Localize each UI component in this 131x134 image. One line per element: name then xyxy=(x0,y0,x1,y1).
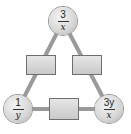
fraction-top: 3 x xyxy=(58,10,69,32)
node-bottom-left: 1 y xyxy=(4,95,32,123)
denominator: y xyxy=(15,110,20,120)
fraction-bottom-left: 1 y xyxy=(13,98,24,120)
denominator: x xyxy=(60,22,65,32)
numerator: 1 xyxy=(15,98,21,109)
answer-box-right[interactable] xyxy=(72,55,102,75)
fraction-bottom-right: 3y x xyxy=(104,98,115,120)
numerator: 3y xyxy=(104,98,115,109)
numerator: 3 xyxy=(60,10,66,21)
node-top: 3 x xyxy=(49,7,77,35)
answer-box-left[interactable] xyxy=(26,55,56,75)
node-bottom-right: 3y x xyxy=(95,95,123,123)
answer-box-bottom[interactable] xyxy=(49,98,79,120)
denominator: x xyxy=(106,110,111,120)
